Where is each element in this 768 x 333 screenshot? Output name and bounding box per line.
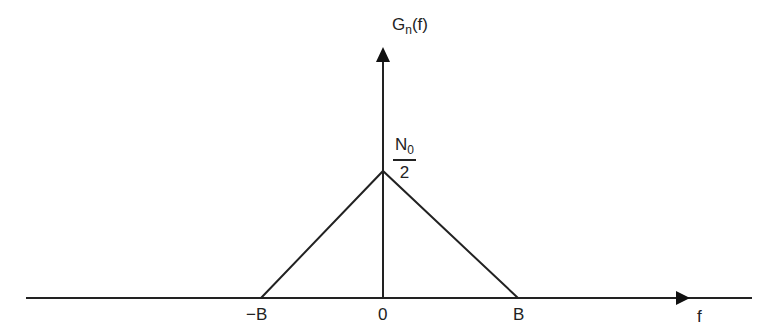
tick-minus-b: −B [246,306,267,323]
y-axis-label: Gn(f) [392,16,428,36]
x-axis-arrow-icon [676,291,690,305]
y-axis-arrow-icon [376,47,390,62]
peak-label: N0 2 [393,135,416,183]
y-label-arg: (f) [412,15,428,34]
triangle-spectrum [261,171,518,298]
y-label-g: G [392,15,405,34]
y-label-sub: n [405,23,412,37]
x-axis-label: f [697,308,702,325]
peak-denominator: 2 [400,161,409,183]
peak-numerator: N0 [393,135,416,161]
peak-num-n: N [395,135,407,154]
peak-num-sub: 0 [407,143,414,157]
tick-b: B [513,306,524,323]
tick-zero: 0 [378,306,387,323]
psd-diagram [0,0,768,333]
